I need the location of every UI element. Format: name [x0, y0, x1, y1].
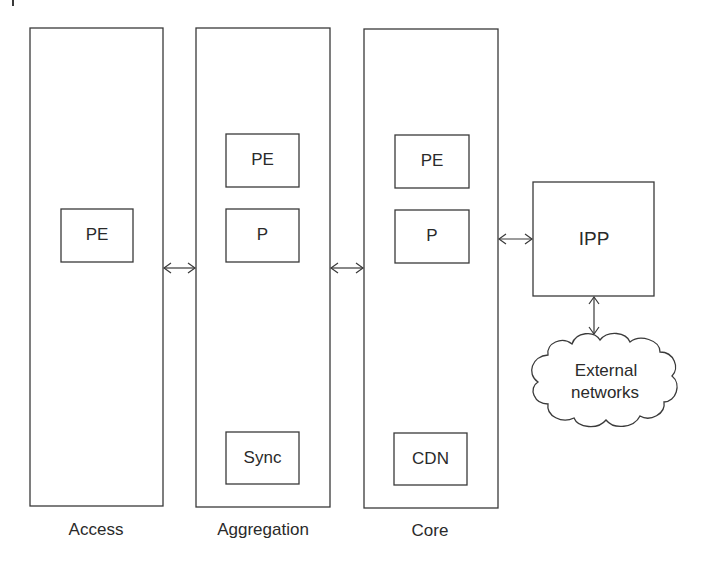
core-cdn-label: CDN: [412, 449, 449, 468]
access-frame: [30, 28, 163, 506]
core-p-label: P: [426, 226, 437, 245]
access-pe-node: PE: [61, 209, 133, 262]
ipp-label: IPP: [579, 228, 610, 249]
network-diagram: PE Access PE P Sync Aggregation PE P: [0, 0, 704, 569]
arrow-aggregation-core: [331, 263, 363, 273]
core-pe-label: PE: [421, 151, 444, 170]
arrow-core-ipp: [499, 234, 532, 244]
access-column-label: Access: [69, 520, 124, 539]
agg-sync-label: Sync: [244, 448, 282, 467]
aggregation-column: PE P Sync Aggregation: [196, 28, 330, 539]
core-cdn-node: CDN: [394, 433, 467, 485]
core-column: PE P CDN Core: [364, 29, 498, 540]
ipp-node: IPP: [533, 182, 654, 296]
cloud-label-line2: networks: [571, 383, 639, 402]
access-column: PE Access: [30, 28, 163, 539]
arrow-access-aggregation: [164, 263, 195, 273]
agg-pe-label: PE: [251, 150, 274, 169]
core-p-node: P: [395, 210, 469, 263]
cloud-label-line1: External: [575, 361, 637, 380]
agg-p-node: P: [226, 209, 299, 262]
core-pe-node: PE: [395, 135, 469, 188]
external-networks-cloud: External networks: [532, 333, 677, 426]
aggregation-column-label: Aggregation: [217, 520, 309, 539]
arrow-ipp-cloud: [589, 297, 599, 334]
agg-p-label: P: [257, 225, 268, 244]
agg-pe-node: PE: [226, 134, 299, 187]
core-column-label: Core: [412, 521, 449, 540]
agg-sync-node: Sync: [226, 432, 299, 484]
access-pe-label: PE: [86, 225, 109, 244]
